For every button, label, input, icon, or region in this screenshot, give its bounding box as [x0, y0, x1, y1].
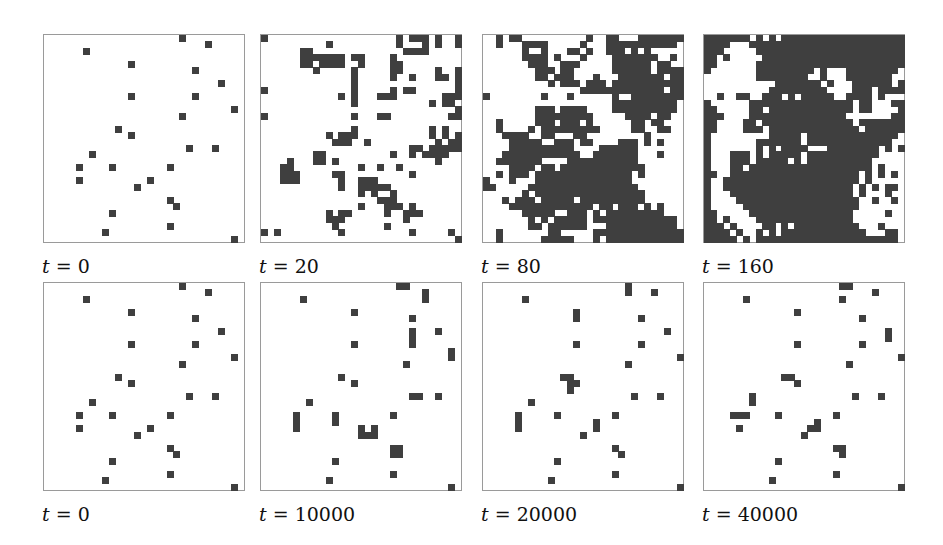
occupied-cell — [638, 315, 645, 322]
occupied-cell — [872, 289, 879, 296]
occupied-cell — [657, 139, 664, 146]
occupied-cell — [638, 341, 645, 348]
occupied-cell — [293, 425, 300, 432]
occupied-cell — [872, 197, 879, 204]
occupied-cell — [326, 477, 333, 484]
occupied-cell — [865, 106, 872, 113]
occupied-cell — [717, 113, 724, 120]
occupied-cell — [580, 432, 587, 439]
occupied-cell — [794, 341, 801, 348]
time-value: = 0 — [50, 503, 90, 525]
occupied-cell — [115, 126, 122, 133]
occupied-cell — [567, 236, 574, 243]
time-label: t = 20 — [259, 255, 319, 277]
occupied-cell — [891, 67, 898, 74]
occupied-cell — [338, 93, 345, 100]
occupied-cell — [496, 171, 503, 178]
occupied-cell — [179, 361, 186, 368]
occupied-cell — [593, 236, 600, 243]
occupied-cell — [522, 171, 529, 178]
occupied-cell — [345, 210, 352, 217]
occupied-cell — [743, 412, 750, 419]
occupied-cell — [736, 425, 743, 432]
occupied-cell — [384, 223, 391, 230]
occupied-cell — [102, 477, 109, 484]
occupied-cell — [403, 216, 410, 223]
lattice-panel-p5 — [43, 282, 245, 491]
occupied-cell — [625, 361, 632, 368]
occupied-cell — [859, 341, 866, 348]
occupied-cell — [839, 451, 846, 458]
occupied-cell — [338, 184, 345, 191]
occupied-cell — [409, 229, 416, 236]
occupied-cell — [338, 229, 345, 236]
occupied-cell — [496, 41, 503, 48]
occupied-cell — [541, 93, 548, 100]
occupied-cell — [205, 41, 212, 48]
occupied-cell — [332, 158, 339, 165]
occupied-cell — [351, 309, 358, 316]
occupied-cell — [358, 61, 365, 68]
occupied-cell — [846, 361, 853, 368]
occupied-cell — [833, 412, 840, 419]
time-value: = 10000 — [267, 503, 355, 525]
occupied-cell — [743, 296, 750, 303]
occupied-cell — [554, 458, 561, 465]
occupied-cell — [775, 458, 782, 465]
occupied-cell — [76, 412, 83, 419]
occupied-cell — [891, 132, 898, 139]
occupied-cell — [717, 93, 724, 100]
occupied-cell — [567, 387, 574, 394]
occupied-cell — [794, 309, 801, 316]
occupied-cell — [664, 328, 671, 335]
occupied-cell — [351, 132, 358, 139]
time-value: = 0 — [50, 255, 90, 277]
occupied-cell — [677, 93, 684, 100]
occupied-cell — [128, 61, 135, 68]
occupied-cell — [134, 432, 141, 439]
occupied-cell — [422, 48, 429, 55]
occupied-cell — [631, 393, 638, 400]
occupied-cell — [128, 132, 135, 139]
time-variable: t — [42, 255, 50, 277]
occupied-cell — [186, 393, 193, 400]
occupied-cell — [109, 412, 116, 419]
time-variable: t — [481, 255, 489, 277]
occupied-cell — [435, 158, 442, 165]
occupied-cell — [338, 216, 345, 223]
occupied-cell — [212, 145, 219, 152]
occupied-cell — [670, 41, 677, 48]
occupied-cell — [396, 164, 403, 171]
occupied-cell — [306, 399, 313, 406]
occupied-cell — [657, 393, 664, 400]
time-value: = 40000 — [710, 503, 798, 525]
occupied-cell — [128, 93, 135, 100]
occupied-cell — [179, 35, 186, 42]
occupied-cell — [814, 425, 821, 432]
occupied-cell — [898, 484, 905, 491]
occupied-cell — [593, 126, 600, 133]
occupied-cell — [625, 289, 632, 296]
occupied-cell — [710, 126, 717, 133]
occupied-cell — [167, 412, 174, 419]
occupied-cell — [898, 87, 905, 94]
lattice-grid — [44, 283, 244, 490]
occupied-cell — [212, 393, 219, 400]
occupied-cell — [358, 203, 365, 210]
occupied-cell — [618, 451, 625, 458]
occupied-cell — [76, 425, 83, 432]
time-label: t = 0 — [42, 255, 90, 277]
occupied-cell — [573, 341, 580, 348]
occupied-cell — [409, 74, 416, 81]
lattice-grid — [44, 35, 244, 242]
occupied-cell — [351, 380, 358, 387]
occupied-cell — [89, 399, 96, 406]
occupied-cell — [704, 67, 711, 74]
occupied-cell — [807, 67, 814, 74]
occupied-cell — [878, 93, 885, 100]
occupied-cell — [730, 236, 737, 243]
occupied-cell — [515, 425, 522, 432]
occupied-cell — [416, 210, 423, 217]
lattice-panel-p1 — [43, 34, 245, 243]
occupied-cell — [528, 399, 535, 406]
